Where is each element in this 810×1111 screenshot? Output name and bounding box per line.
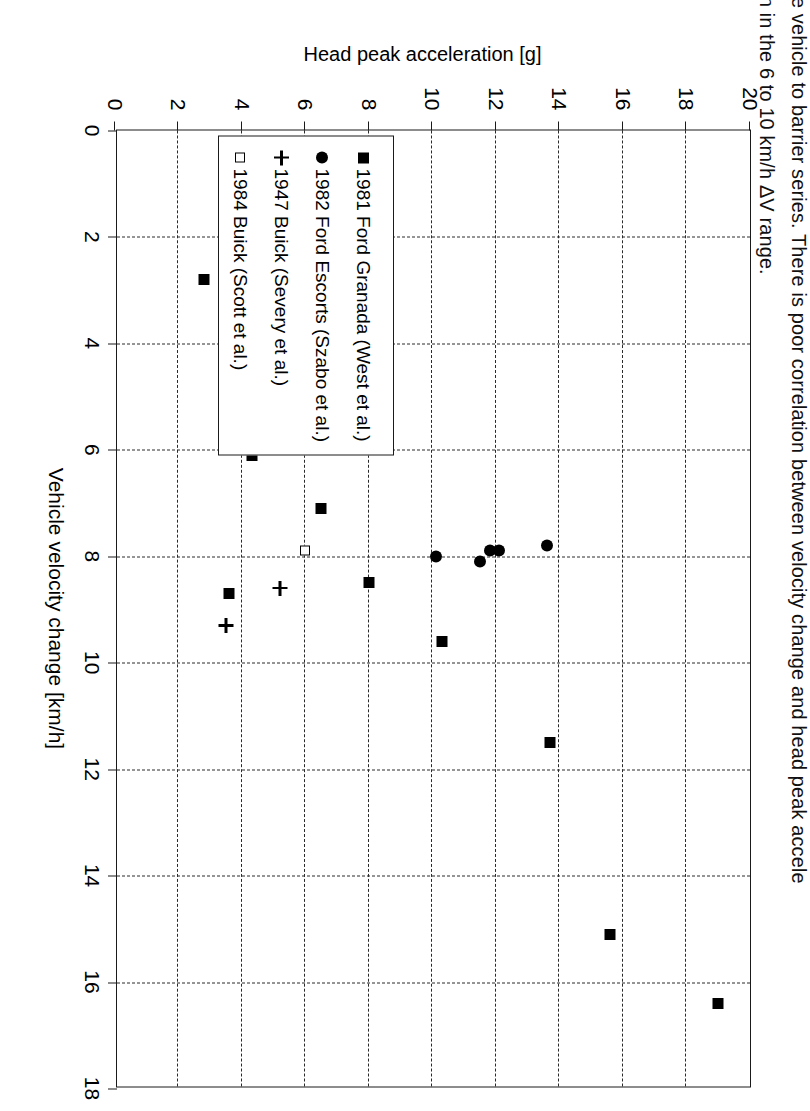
x-axis-tick <box>108 343 117 344</box>
gridline-vertical <box>117 662 750 663</box>
data-point-series-1 <box>364 577 375 588</box>
x-axis-tick <box>108 875 117 876</box>
gridline-horizontal <box>686 130 687 1086</box>
x-axis-tick-label: 4 <box>80 337 104 349</box>
x-axis-tick-label: 2 <box>80 231 104 243</box>
x-axis-tick-label: 0 <box>80 124 104 136</box>
body-text-line-2: tion in the 6 to 10 km/h ΔV range. <box>755 0 778 1085</box>
x-axis-tick-label: 10 <box>80 651 104 674</box>
y-axis-tick <box>178 121 179 130</box>
gridline-horizontal <box>432 130 433 1086</box>
gridline-vertical <box>117 875 750 876</box>
x-axis-tick <box>108 556 117 557</box>
data-point-series-4 <box>301 545 311 555</box>
x-axis-tick-label: 16 <box>80 970 104 993</box>
y-axis-tick <box>305 121 306 130</box>
legend-item-3[interactable]: 1947 Buick (Severy et al.) <box>261 146 302 444</box>
data-point-series-1 <box>224 588 235 599</box>
legend-item-label: 1984 Buick (Scott et al.) <box>230 168 252 370</box>
y-axis-tick <box>495 121 496 130</box>
plot-area: 02468101214161802468101214161820 <box>116 129 751 1087</box>
gridline-vertical <box>117 343 750 344</box>
y-axis-tick <box>241 121 242 130</box>
y-axis-tick-label: 16 <box>611 87 635 110</box>
x-axis-tick <box>108 1088 117 1089</box>
y-axis-tick-label: 14 <box>548 87 572 110</box>
y-axis-tick-label: 12 <box>484 87 508 110</box>
legend-item-label: 1982 Ford Escorts (Szabo et al.) <box>312 168 334 442</box>
y-axis-tick <box>559 121 560 130</box>
legend-marker-icon <box>315 146 331 168</box>
legend-marker-icon <box>274 146 290 168</box>
legend-item-label: 1947 Buick (Severy et al.) <box>271 168 293 386</box>
legend-item-4[interactable]: 1984 Buick (Scott et al.) <box>220 146 261 444</box>
gridline-vertical <box>117 769 750 770</box>
gridline-horizontal <box>559 130 560 1086</box>
x-axis-tick <box>108 449 117 450</box>
x-axis-tick <box>108 982 117 983</box>
y-axis-tick-label: 10 <box>421 87 445 110</box>
y-axis-tick <box>686 121 687 130</box>
gridline-horizontal <box>622 130 623 1086</box>
y-axis-tick-label: 4 <box>230 98 254 110</box>
x-axis-title: Vehicle velocity change [km/h] <box>44 129 68 1087</box>
x-axis-tick-label: 12 <box>80 757 104 780</box>
data-point-series-2 <box>474 555 486 567</box>
x-axis-tick-label: 8 <box>80 550 104 562</box>
body-text-line-1: one vehicle to barrier series. There is … <box>787 0 810 1085</box>
chart-legend: 1981 Ford Granada (West et al.)1982 Ford… <box>218 135 394 455</box>
data-point-series-2 <box>484 544 496 556</box>
data-point-series-2 <box>430 550 442 562</box>
legend-item-1[interactable]: 1981 Ford Granada (West et al.) <box>343 146 384 444</box>
y-axis-tick-label: 18 <box>675 87 699 110</box>
x-axis-tick-label: 14 <box>80 863 104 886</box>
x-axis-tick <box>108 662 117 663</box>
x-axis-tick <box>108 236 117 237</box>
legend-item-label: 1981 Ford Granada (West et al.) <box>353 168 375 441</box>
gridline-vertical <box>117 982 750 983</box>
data-point-series-3 <box>219 617 234 632</box>
y-axis-tick-label: 6 <box>294 98 318 110</box>
data-point-series-1 <box>437 635 448 646</box>
data-point-series-1 <box>544 737 555 748</box>
y-axis-tick <box>368 121 369 130</box>
data-point-series-1 <box>605 928 616 939</box>
legend-item-2[interactable]: 1982 Ford Escorts (Szabo et al.) <box>302 146 343 444</box>
data-point-series-1 <box>316 502 327 513</box>
legend-marker-icon <box>356 146 372 168</box>
legend-marker-icon <box>233 146 249 168</box>
y-axis-tick-label: 20 <box>738 87 762 110</box>
y-axis-tick <box>749 121 750 130</box>
x-axis-tick-label: 6 <box>80 443 104 455</box>
x-axis-tick-label: 18 <box>80 1076 104 1099</box>
data-point-series-3 <box>273 580 288 595</box>
y-axis-tick-label: 2 <box>167 98 191 110</box>
y-axis-tick <box>432 121 433 130</box>
gridline-vertical <box>117 236 750 237</box>
x-axis-tick <box>108 130 117 131</box>
data-point-series-2 <box>541 539 553 551</box>
gridline-horizontal <box>178 130 179 1086</box>
gridline-horizontal <box>495 130 496 1086</box>
data-point-series-1 <box>713 997 724 1008</box>
gridline-vertical <box>117 449 750 450</box>
y-axis-tick <box>622 121 623 130</box>
y-axis-tick-label: 0 <box>103 98 127 110</box>
y-axis-tick-label: 8 <box>357 98 381 110</box>
y-axis-title: Head peak acceleration [g] <box>105 42 740 65</box>
y-axis-tick <box>114 121 115 130</box>
x-axis-tick <box>108 769 117 770</box>
data-point-series-1 <box>198 274 209 285</box>
